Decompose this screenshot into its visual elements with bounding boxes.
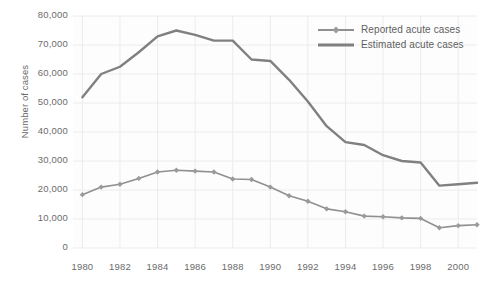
legend-item-estimated: Estimated acute cases bbox=[318, 37, 464, 52]
legend-line-reported-icon bbox=[318, 24, 354, 36]
legend-label-estimated: Estimated acute cases bbox=[361, 39, 464, 50]
legend-line-estimated-icon bbox=[318, 39, 354, 51]
legend-swatch-reported bbox=[318, 24, 354, 36]
chart-legend: Reported acute cases Estimated acute cas… bbox=[318, 22, 464, 52]
legend-label-reported: Reported acute cases bbox=[361, 24, 460, 35]
chart-container: Number of cases 80,00070,00060,00050,000… bbox=[0, 0, 485, 284]
legend-item-reported: Reported acute cases bbox=[318, 22, 464, 37]
legend-swatch-estimated bbox=[318, 39, 354, 51]
